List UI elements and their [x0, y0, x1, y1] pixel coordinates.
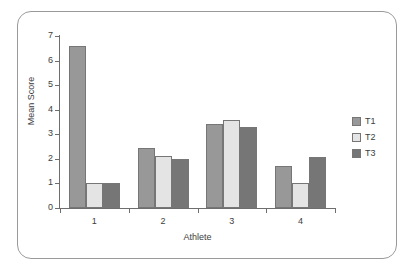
y-axis-tick-label: 7: [27, 31, 53, 40]
x-axis-tick: [198, 209, 199, 213]
x-axis-tick-label: 1: [74, 216, 114, 226]
legend-swatch-icon: [352, 149, 361, 158]
bar-t2-athlete-1: [86, 183, 103, 208]
legend-item-label: T1: [365, 116, 376, 126]
legend-item-label: T2: [365, 132, 376, 142]
y-axis-tick-label: 2: [27, 154, 53, 163]
bar-t3-athlete-1: [103, 183, 120, 208]
x-axis-tick-label: 4: [281, 216, 321, 226]
x-axis-tick: [335, 209, 336, 213]
plot-area: [60, 36, 335, 208]
legend-item-t3[interactable]: T3: [352, 145, 392, 161]
y-axis-tick: [55, 85, 59, 86]
legend-swatch-icon: [352, 117, 361, 126]
legend-item-t2[interactable]: T2: [352, 129, 392, 145]
x-axis-tick-label: 3: [212, 216, 252, 226]
figure: 01234567 Mean Score Athlete T1T2T3 1234: [0, 0, 413, 274]
x-axis-tick: [60, 209, 61, 213]
bar-t3-athlete-4: [309, 157, 326, 208]
legend: T1T2T3: [352, 113, 392, 161]
y-axis-tick: [55, 61, 59, 62]
legend-swatch-icon: [352, 133, 361, 142]
y-axis-label: Mean Score: [26, 56, 36, 146]
bar-t2-athlete-3: [223, 120, 240, 208]
y-axis-tick: [55, 110, 59, 111]
y-axis-tick: [55, 208, 59, 209]
y-axis-tick-label: 0: [27, 203, 53, 212]
bar-t1-athlete-2: [138, 148, 155, 208]
bar-t1-athlete-1: [69, 46, 86, 208]
x-axis-tick: [266, 209, 267, 213]
bar-t2-athlete-2: [155, 156, 172, 208]
y-axis-tick: [55, 183, 59, 184]
y-axis-tick: [55, 159, 59, 160]
x-axis-tick-label: 2: [143, 216, 183, 226]
bar-t2-athlete-4: [292, 183, 309, 208]
legend-item-t1[interactable]: T1: [352, 113, 392, 129]
bar-t3-athlete-2: [172, 159, 189, 208]
y-axis-tick-label: 1: [27, 178, 53, 187]
y-axis-tick-labels: 01234567: [20, 0, 53, 274]
x-axis-label: Athlete: [60, 232, 335, 242]
bar-t1-athlete-4: [275, 166, 292, 208]
legend-item-label: T3: [365, 148, 376, 158]
bar-t1-athlete-3: [206, 124, 223, 208]
y-axis-tick: [55, 36, 59, 37]
bar-t3-athlete-3: [240, 127, 257, 208]
x-axis-tick: [129, 209, 130, 213]
y-axis-tick: [55, 134, 59, 135]
